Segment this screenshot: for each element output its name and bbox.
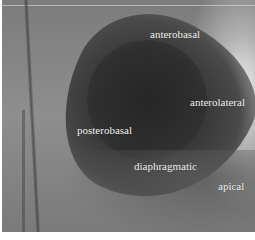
label-anterolateral: anterolateral: [190, 96, 245, 108]
catheter-shadow-secondary: [22, 110, 25, 232]
ventricle-core: [87, 40, 207, 160]
angiogram-image: anterobasal anterolateral posterobasal d…: [2, 0, 255, 232]
label-diaphragmatic: diaphragmatic: [134, 160, 197, 172]
label-posterobasal: posterobasal: [77, 124, 132, 136]
label-anterobasal: anterobasal: [150, 28, 200, 40]
label-apical: apical: [218, 180, 244, 192]
top-line-artifact: [2, 5, 255, 6]
